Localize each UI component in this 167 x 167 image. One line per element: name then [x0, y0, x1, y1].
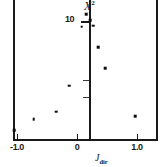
data-point: [134, 115, 137, 118]
data-point: [13, 129, 16, 132]
plot-frame-bottom-axis: [13, 139, 158, 141]
y-axis-tick-minor: [83, 97, 89, 98]
data-point: [89, 19, 92, 22]
data-point: [97, 46, 100, 49]
data-point: [68, 85, 71, 88]
y-axis-tick-minor: [83, 80, 89, 81]
data-point: [92, 24, 95, 27]
y-axis-tick-major: [81, 21, 89, 23]
x-tick-label: 1.0: [131, 142, 142, 152]
x-axis-tick: [137, 134, 138, 139]
x-axis-tick: [77, 134, 78, 139]
data-point: [104, 67, 107, 70]
plot-frame-left-border: [13, 0, 15, 141]
y-axis-label-exponent: 2: [91, 0, 95, 7]
x-tick-label: -1.0: [10, 142, 24, 152]
scatter-plot-figure: 10 X2 -1.001.0 Jdir: [0, 0, 167, 167]
x-axis-label: Jdir: [95, 152, 108, 165]
plot-frame-right-border: [156, 0, 158, 141]
y-tick-label-10: 10: [65, 14, 74, 24]
plot-frame: 10 X2: [13, 0, 158, 141]
x-axis-label-subscript: dir: [99, 158, 107, 165]
data-point: [81, 26, 84, 29]
data-point: [33, 118, 36, 121]
x-tick-label: 0: [75, 142, 80, 152]
x-axis-tick: [17, 134, 18, 139]
y-axis-label: X2: [84, 0, 95, 14]
data-point: [55, 111, 58, 114]
